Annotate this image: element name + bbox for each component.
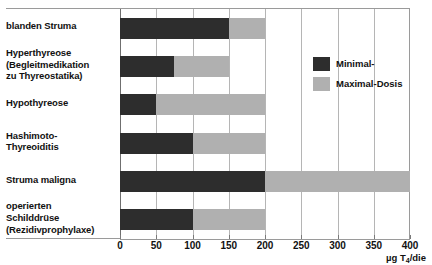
x-axis-title-main: µg T	[386, 252, 406, 263]
label-column-bottom-rule	[6, 238, 120, 239]
legend-swatch	[313, 57, 330, 71]
legend-swatch	[313, 77, 330, 91]
category-label-column: blanden StrumaHyperthyreose(Begleitmedik…	[0, 0, 118, 238]
category-label: Hashimoto-Thyreoiditis	[6, 130, 118, 153]
bar-segment-minimal-dose	[120, 209, 193, 230]
legend-item: Maximal-Dosis	[313, 75, 425, 92]
bar-row	[120, 171, 410, 192]
x-axis-ticks: 050100150200250300350400	[120, 240, 410, 256]
legend-label: Minimal-	[336, 58, 375, 69]
bar-segment-maximal-dose	[156, 94, 265, 115]
category-label-line: Struma maligna	[6, 174, 118, 186]
x-tick-mark-100	[193, 235, 194, 239]
gridline-150	[229, 9, 230, 239]
category-label-line: (Rezidivprophylaxe)	[6, 224, 118, 236]
category-label-line: operierten	[6, 200, 118, 212]
legend-label: Maximal-Dosis	[336, 78, 403, 89]
gridline-50	[156, 9, 157, 239]
y-axis-line	[120, 9, 121, 239]
category-label: Hypothyreose	[6, 97, 118, 109]
gridline-300	[338, 9, 339, 239]
x-tick-label-250: 250	[293, 240, 310, 251]
plot-area	[120, 8, 410, 240]
bar-row	[120, 94, 410, 115]
gridline-250	[301, 9, 302, 239]
bar-segment-maximal-dose	[193, 209, 266, 230]
legend-item: Minimal-	[313, 55, 425, 72]
x-tick-mark-50	[156, 235, 157, 239]
thyroid-dosage-bar-chart: blanden StrumaHyperthyreose(Begleitmedik…	[0, 0, 432, 265]
x-tick-mark-150	[229, 235, 230, 239]
x-tick-label-50: 50	[151, 240, 162, 251]
x-tick-label-400: 400	[402, 240, 419, 251]
x-tick-label-200: 200	[257, 240, 274, 251]
bar-row	[120, 133, 410, 154]
x-tick-mark-400	[410, 235, 411, 239]
x-tick-mark-350	[374, 235, 375, 239]
category-label: operiertenSchilddrüse(Rezidivprophylaxe)	[6, 200, 118, 235]
bar-segment-minimal-dose	[120, 56, 174, 77]
bar-segment-minimal-dose	[120, 171, 265, 192]
bar-segment-maximal-dose	[229, 18, 265, 39]
bar-segment-minimal-dose	[120, 133, 193, 154]
category-label-line: Thyreoiditis	[6, 141, 118, 153]
category-label-line: Hashimoto-	[6, 130, 118, 142]
category-label-line: (Begleitmedikation	[6, 59, 118, 71]
category-label: Hyperthyreose(Begleitmedikationzu Thyreo…	[6, 47, 118, 82]
category-label-line: blanden Struma	[6, 20, 118, 32]
x-tick-mark-200	[265, 235, 266, 239]
x-tick-label-150: 150	[220, 240, 237, 251]
gridline-100	[193, 9, 194, 239]
bar-segment-minimal-dose	[120, 18, 229, 39]
legend: Minimal-Maximal-Dosis	[313, 55, 425, 95]
x-axis-title-tail: /die	[410, 252, 426, 263]
bar-row	[120, 209, 410, 230]
bar-row	[120, 18, 410, 39]
plot-right-edge	[409, 9, 410, 239]
category-label-line: Schilddrüse	[6, 212, 118, 224]
category-label-line: Hyperthyreose	[6, 47, 118, 59]
bar-segment-maximal-dose	[174, 56, 228, 77]
gridline-350	[374, 9, 375, 239]
gridline-200	[265, 9, 266, 239]
x-tick-mark-300	[338, 235, 339, 239]
x-tick-label-350: 350	[365, 240, 382, 251]
category-label-line: zu Thyreostatika)	[6, 70, 118, 82]
x-axis-title: µg T4/die	[386, 252, 426, 263]
x-tick-mark-0	[120, 235, 121, 239]
x-tick-label-300: 300	[329, 240, 346, 251]
bar-segment-minimal-dose	[120, 94, 156, 115]
x-tick-label-100: 100	[184, 240, 201, 251]
bar-segment-maximal-dose	[265, 171, 410, 192]
category-label-line: Hypothyreose	[6, 97, 118, 109]
x-tick-label-0: 0	[117, 240, 123, 251]
category-label: Struma maligna	[6, 174, 118, 186]
x-tick-mark-250	[301, 235, 302, 239]
bar-segment-maximal-dose	[193, 133, 266, 154]
category-label: blanden Struma	[6, 20, 118, 32]
x-axis-title-subscript: 4	[406, 257, 410, 264]
